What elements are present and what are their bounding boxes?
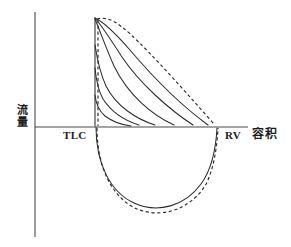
tlc-label: TLC: [63, 130, 87, 141]
expiratory-curve-1: [95, 18, 208, 125]
expiratory-curve-5: [95, 68, 139, 125]
rv-label: RV: [225, 130, 241, 141]
inspiratory-loop-solid-curve: [96, 127, 217, 208]
x-axis-label: 容积: [252, 128, 277, 140]
flow-volume-loop-figure: TLC RV 容积 流量: [0, 0, 291, 247]
y-axis-label: 流量: [13, 104, 27, 128]
expiratory-curve-2: [95, 18, 193, 125]
flow-volume-plot-canvas: [0, 0, 291, 247]
inspiratory-loop-dashed-curve: [97, 128, 218, 213]
maximal-expiratory-envelope-dashed-curve: [97, 18, 214, 124]
